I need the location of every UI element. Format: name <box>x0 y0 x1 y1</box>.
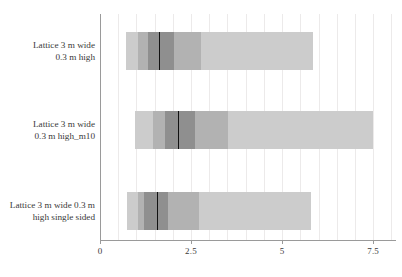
median-line <box>157 192 158 230</box>
box-plot-row <box>100 111 395 149</box>
inner-range-band <box>148 32 173 70</box>
category-label: Lattice 3 m wide 0.3 m high single sided <box>0 199 95 223</box>
category-label: Lattice 3 m wide 0.3 m high <box>0 39 95 63</box>
median-line <box>178 111 179 149</box>
x-tick-mark <box>100 240 101 244</box>
x-tick-mark <box>191 240 192 244</box>
median-line <box>159 32 160 70</box>
x-tick-label: 7.5 <box>367 246 379 256</box>
box-plot-chart: 02.557.5 Lattice 3 m wide 0.3 m highLatt… <box>0 0 402 277</box>
box-plot-row <box>100 192 395 230</box>
x-tick-label: 2.5 <box>185 246 197 256</box>
inner-range-band <box>165 111 195 149</box>
category-label: Lattice 3 m wide 0.3 m high_m10 <box>0 118 95 142</box>
x-tick-mark <box>282 240 283 244</box>
x-tick-mark <box>373 240 374 244</box>
x-axis-line <box>100 240 396 241</box>
x-tick-label: 0 <box>98 246 103 256</box>
x-tick-label: 5 <box>280 246 285 256</box>
box-plot-row <box>100 32 395 70</box>
